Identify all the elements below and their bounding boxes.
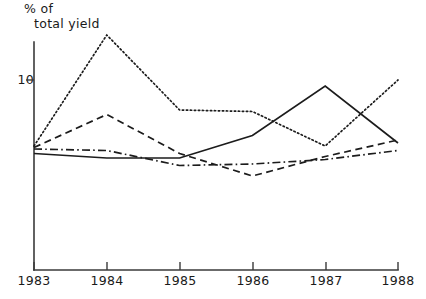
series-line-dotted	[34, 35, 398, 146]
line-chart: % of total yield 10 1983 1984 1985 1986 …	[0, 0, 426, 299]
series-line-dashed	[34, 115, 398, 177]
plot-area	[0, 0, 426, 299]
